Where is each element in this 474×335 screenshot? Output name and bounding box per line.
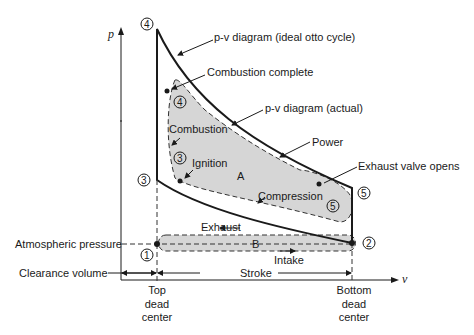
svg-text:dead: dead	[145, 298, 169, 310]
stroke-label: Stroke	[240, 267, 272, 279]
point-5: 5	[358, 187, 370, 199]
point-4-top: 4	[141, 18, 153, 30]
point-2: 2	[363, 237, 375, 249]
y-axis-label: p	[107, 27, 114, 41]
compression-label: Compression	[258, 190, 323, 202]
svg-text:1: 1	[144, 250, 150, 261]
combustion-label: Combustion	[169, 123, 228, 135]
svg-text:2: 2	[366, 238, 372, 249]
x-axis-label: v	[402, 272, 408, 286]
svg-text:4: 4	[144, 19, 150, 30]
intake-label: Intake	[274, 254, 304, 266]
tdc-label: Top	[148, 284, 166, 296]
svg-text:center: center	[339, 311, 370, 323]
ignition-label: Ignition	[192, 157, 227, 169]
bdc-label: Bottom	[337, 284, 372, 296]
exhaust-label: Exhaust	[201, 221, 241, 233]
svg-text:5: 5	[330, 201, 336, 212]
svg-text:3: 3	[141, 175, 147, 186]
x-axis-arrow-icon	[391, 277, 399, 283]
otto-cycle-diagram: 4 3 1 2 5 4 3 5 p v p-v diagram (ideal o…	[0, 0, 474, 335]
point-1: 1	[141, 249, 153, 261]
ideal-label: p-v diagram (ideal otto cycle)	[214, 31, 355, 43]
point-3: 3	[138, 174, 150, 186]
svg-text:center: center	[142, 311, 173, 323]
actual-label: p-v diagram (actual)	[265, 102, 363, 114]
area-a-label: A	[237, 170, 245, 182]
atmospheric-pressure-label: Atmospheric pressure	[15, 238, 122, 250]
exhaust-valve-opens-label: Exhaust valve opens	[358, 160, 460, 172]
svg-text:4: 4	[177, 97, 183, 108]
area-b-label: B	[252, 238, 259, 250]
svg-text:dead: dead	[342, 298, 366, 310]
svg-text:3: 3	[177, 153, 183, 164]
clearance-volume-label: Clearance volume	[19, 267, 108, 279]
power-label: Power	[312, 136, 344, 148]
y-axis-arrow-icon	[118, 27, 124, 35]
combustion-complete-label: Combustion complete	[207, 66, 313, 78]
svg-text:5: 5	[361, 188, 367, 199]
